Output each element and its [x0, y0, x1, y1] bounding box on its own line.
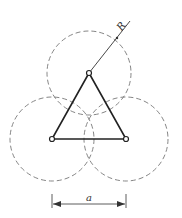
triangle [52, 73, 126, 139]
side-label: a [86, 192, 92, 203]
vertex-top [87, 71, 92, 76]
radius-label: R [114, 19, 128, 33]
radius-tick [116, 37, 118, 39]
vertex-left [50, 137, 55, 142]
vertex-right [124, 137, 129, 142]
equilateral-triangle-circles-diagram: R a [0, 0, 182, 218]
